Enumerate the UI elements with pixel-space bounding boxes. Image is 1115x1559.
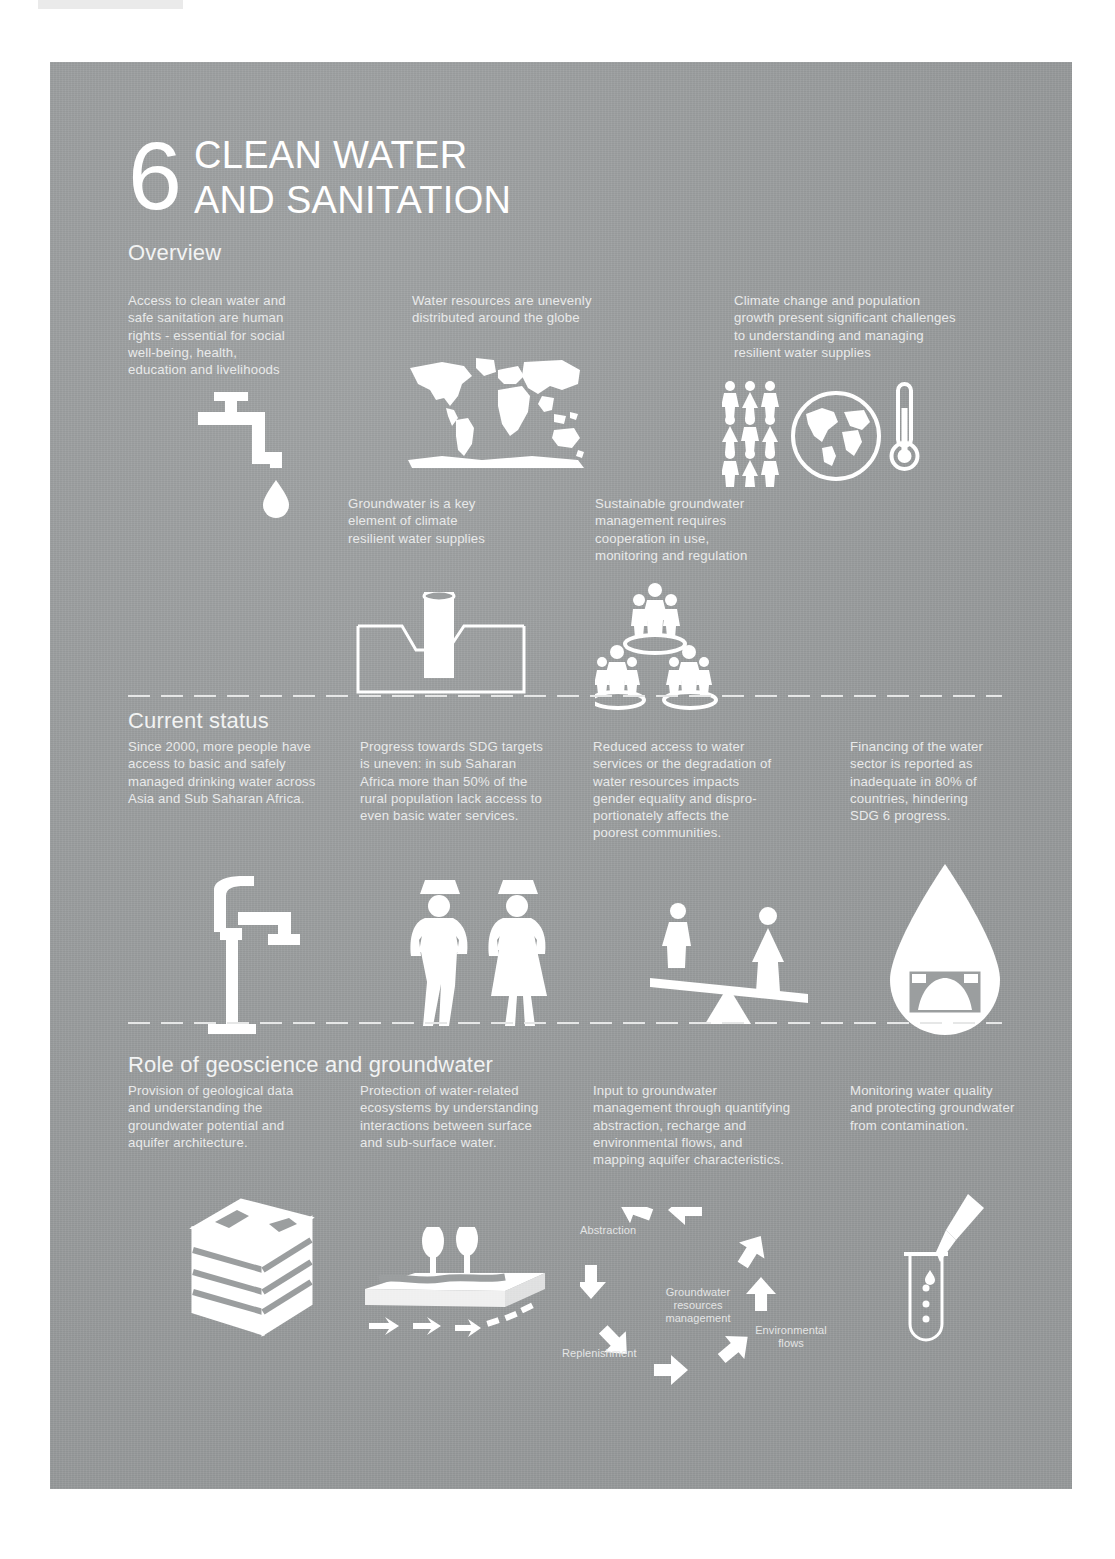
- status-text-gender-equality: Reduced access to water services or the …: [593, 738, 818, 842]
- cycle-label-abstraction: Abstraction: [580, 1224, 636, 1237]
- role-text-ecosystem-protection: Protection of water-related ecosystems b…: [360, 1082, 595, 1151]
- section-heading-current-status: Current status: [128, 708, 269, 734]
- role-text-monitoring-quality: Monitoring water quality and protecting …: [850, 1082, 1065, 1134]
- page-title: CLEAN WATER AND SANITATION: [194, 127, 511, 223]
- role-text-geological-data: Provision of geological data and underst…: [128, 1082, 368, 1151]
- water-carriers-icon: [395, 880, 585, 1030]
- divider-status-role: [128, 1022, 1002, 1024]
- overview-text-access-rights: Access to clean water and safe sanitatio…: [128, 292, 343, 378]
- overview-text-uneven-distribution: Water resources are unevenly distributed…: [412, 292, 652, 327]
- divider-overview-status: [128, 695, 1002, 697]
- world-map-icon: [402, 354, 592, 474]
- cycle-label-environmental-flows: Environmental flows: [750, 1324, 832, 1350]
- borehole-icon: [352, 592, 532, 697]
- role-text-groundwater-management: Input to groundwater management through …: [593, 1082, 843, 1168]
- climate-population-icon: [722, 380, 922, 490]
- ecosystem-cross-section-icon: [355, 1227, 550, 1352]
- goal-title-line-1: CLEAN WATER: [194, 133, 511, 178]
- cycle-label-center: Groundwater resources management: [642, 1286, 754, 1325]
- status-text-sdg-progress-uneven: Progress towards SDG targets is uneven: …: [360, 738, 592, 824]
- section-heading-role: Role of geoscience and groundwater: [128, 1052, 493, 1078]
- hand-pump-icon: [198, 874, 318, 1034]
- status-text-access-since-2000: Since 2000, more people have access to b…: [128, 738, 380, 807]
- overview-text-groundwater-key: Groundwater is a key element of climate …: [348, 495, 563, 547]
- geological-block-icon: [185, 1192, 320, 1342]
- gender-seesaw-icon: [648, 902, 813, 1027]
- overview-text-sustainable-management: Sustainable groundwater management requi…: [595, 495, 830, 564]
- sdg6-poster-panel: 6 CLEAN WATER AND SANITATION Overview Ac…: [50, 62, 1072, 1489]
- poster-page: 6 CLEAN WATER AND SANITATION Overview Ac…: [0, 0, 1115, 1559]
- test-tube-pipette-icon: [890, 1192, 995, 1347]
- status-text-financing: Financing of the water sector is reporte…: [850, 738, 1055, 824]
- cycle-label-replenishment: Replenishment: [562, 1347, 637, 1360]
- water-tap-icon: [188, 392, 298, 522]
- cooperation-people-icon: [595, 582, 745, 712]
- goal-title-line-2: AND SANITATION: [194, 178, 511, 223]
- section-heading-overview: Overview: [128, 240, 221, 266]
- goal-number: 6: [128, 133, 180, 219]
- overview-text-climate-population: Climate change and population growth pre…: [734, 292, 994, 361]
- scan-artifact: [38, 0, 183, 9]
- poster-header: 6 CLEAN WATER AND SANITATION: [128, 127, 511, 223]
- water-droplet-banknote-icon: [880, 862, 1010, 1042]
